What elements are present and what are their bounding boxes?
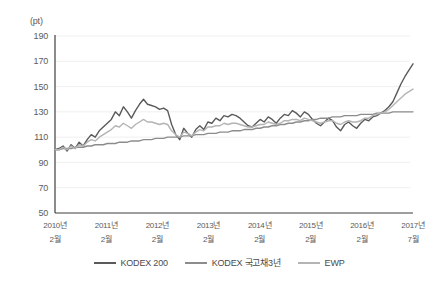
series-line	[55, 64, 413, 151]
x-axis-tick-year: 2012년	[146, 220, 170, 230]
legend-item[interactable]: KODEX 국고채3년	[185, 256, 281, 269]
y-axis-tick-label: 130	[34, 107, 49, 117]
y-axis-tick-label: 90	[38, 158, 48, 168]
y-axis-tick-label: 50	[38, 208, 48, 218]
x-axis-tick-month: 2월	[356, 234, 367, 244]
data-series-group	[55, 64, 413, 151]
y-axis-tick-label: 190	[34, 31, 49, 41]
x-axis-tick-month: 2월	[152, 234, 163, 244]
x-axis-tick-month: 2월	[101, 234, 112, 244]
x-axis-tick-month: 2월	[50, 234, 61, 244]
chart-legend: KODEX 200KODEX 국고채3년EWP	[0, 256, 438, 269]
x-axis-tick-year: 2011년	[95, 220, 118, 230]
chart-plot-area: 190170150130110907050 2010년2월2011년2월2012…	[0, 0, 438, 285]
legend-line-swatch	[185, 262, 207, 264]
y-axis-tick-label: 70	[38, 183, 48, 193]
legend-label: EWP	[325, 258, 345, 268]
x-axis-tick-labels: 2010년2월2011년2월2012년2월2013년2월2014년2월2015년…	[43, 220, 425, 244]
legend-item[interactable]: KODEX 200	[94, 258, 168, 268]
y-axis-tick-label: 170	[34, 56, 49, 66]
gridlines	[55, 36, 410, 188]
x-axis-tick-month: 7월	[408, 234, 419, 244]
y-axis-tick-label: 150	[34, 82, 49, 92]
x-axis-tick-year: 2016년	[350, 220, 374, 230]
x-axis-tick-year: 2014년	[248, 220, 272, 230]
x-axis-tick-month: 2월	[254, 234, 265, 244]
legend-item[interactable]: EWP	[298, 258, 345, 268]
series-line	[55, 89, 413, 150]
legend-label: KODEX 200	[121, 258, 168, 268]
legend-line-swatch	[94, 262, 116, 264]
x-axis-tick-month: 2월	[203, 234, 214, 244]
line-chart: (pt) 190170150130110907050 2010년2월2011년2…	[0, 0, 438, 285]
x-axis-tick-year: 2017년	[401, 220, 425, 230]
x-axis-tick-month: 2월	[305, 234, 316, 244]
x-axis-tick-year: 2013년	[197, 220, 221, 230]
x-axis-tick-year: 2010년	[43, 220, 67, 230]
y-axis-tick-labels: 190170150130110907050	[34, 31, 49, 218]
y-axis-tick-label: 110	[34, 132, 48, 142]
legend-line-swatch	[298, 262, 320, 264]
legend-label: KODEX 국고채3년	[212, 256, 281, 269]
x-axis-tick-year: 2015년	[299, 220, 323, 230]
